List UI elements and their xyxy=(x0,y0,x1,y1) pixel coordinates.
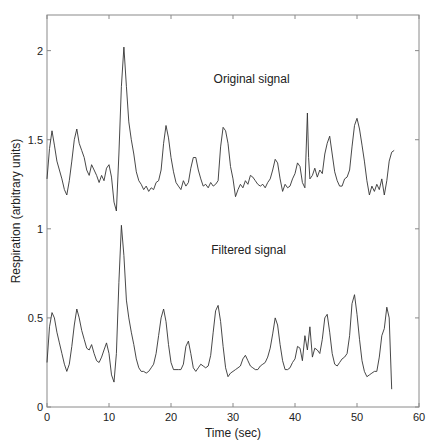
x-tick-label: 40 xyxy=(289,411,301,423)
y-tick-label: 0.5 xyxy=(28,312,43,324)
x-tick-label: 20 xyxy=(165,411,177,423)
y-axis-label: Respiration (arbitrary units) xyxy=(9,139,23,284)
x-tick-label: 10 xyxy=(103,411,115,423)
x-tick-label: 0 xyxy=(44,411,50,423)
x-tick-label: 30 xyxy=(227,411,239,423)
annotation-filtered-signal: Filtered signal xyxy=(211,243,286,257)
y-tick-label: 0 xyxy=(37,401,43,413)
annotation-original-signal: Original signal xyxy=(214,72,290,86)
y-tick-label: 1.5 xyxy=(28,134,43,146)
y-tick-label: 1 xyxy=(37,223,43,235)
x-tick-label: 60 xyxy=(413,411,425,423)
x-axis-label: Time (sec) xyxy=(205,426,261,440)
y-tick-label: 2 xyxy=(37,45,43,57)
x-tick-label: 50 xyxy=(351,411,363,423)
respiration-chart: 0102030405060 00.511.52 Original signal … xyxy=(0,0,438,446)
